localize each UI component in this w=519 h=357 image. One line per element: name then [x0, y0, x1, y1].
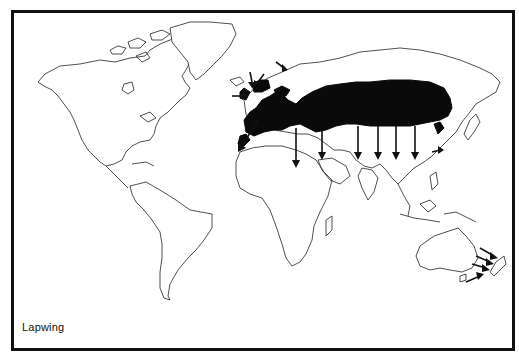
world-map — [0, 0, 519, 357]
south-america — [130, 182, 212, 300]
africa — [236, 146, 332, 266]
map-title: Lapwing — [22, 321, 64, 333]
australia — [416, 228, 478, 272]
north-america — [38, 36, 200, 166]
